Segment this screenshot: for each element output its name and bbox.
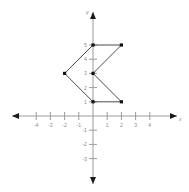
x-tick-label: 4 (148, 122, 151, 128)
coordinate-plane-figure: -4-3-2-11234 54321-1-2-3 x y (0, 0, 189, 192)
vertex-marker (120, 100, 123, 103)
y-tick-label: 3 (84, 70, 87, 76)
x-tick-label: 2 (120, 122, 123, 128)
y-tick-label: 5 (84, 42, 87, 48)
y-tick-label: -2 (82, 141, 87, 147)
vertex-marker (91, 43, 94, 46)
x-axis (12, 113, 177, 119)
y-tick-label: -1 (82, 127, 87, 133)
y-axis-arrow-down (90, 177, 96, 184)
y-tick-label: 2 (84, 85, 87, 91)
x-tick-label: -1 (76, 122, 81, 128)
graph-canvas: -4-3-2-11234 54321-1-2-3 x y (0, 0, 189, 192)
y-tick-label: -3 (82, 156, 87, 162)
y-tick-label: 1 (84, 99, 87, 105)
y-axis-label: y (85, 9, 89, 15)
vertex-marker (91, 72, 94, 75)
x-tick-label: 1 (106, 122, 109, 128)
y-axis-arrow-up (90, 12, 96, 19)
vertex-marker (91, 100, 94, 103)
x-tick-label: -3 (48, 122, 53, 128)
x-axis-label: x (178, 116, 182, 122)
x-tick-label: -4 (34, 122, 39, 128)
x-axis-arrow-right (170, 113, 177, 119)
x-axis-arrow-left (12, 113, 19, 119)
y-axis-tick-labels: 54321-1-2-3 (82, 42, 87, 162)
vertex-marker (63, 72, 66, 75)
vertex-marker (120, 43, 123, 46)
y-tick-label: 4 (84, 56, 87, 62)
x-tick-label: 3 (134, 122, 137, 128)
x-tick-label: -2 (62, 122, 67, 128)
